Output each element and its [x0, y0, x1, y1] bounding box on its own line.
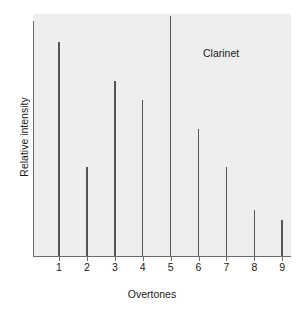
- x-axis-title: Overtones: [0, 288, 304, 300]
- bar-overtone-5: [170, 16, 172, 256]
- bar-overtone-6: [198, 129, 200, 256]
- series-annotation-clarinet: Clarinet: [203, 47, 239, 59]
- x-tick-label-1: 1: [47, 261, 71, 274]
- bar-overtone-4: [142, 100, 144, 256]
- x-tick-label-4: 4: [131, 261, 155, 274]
- bar-overtone-2: [86, 167, 88, 256]
- bar-overtone-3: [114, 81, 116, 256]
- bar-overtone-8: [254, 210, 256, 256]
- x-tick-label-6: 6: [187, 261, 211, 274]
- x-tick-label-8: 8: [242, 261, 266, 274]
- clarinet-overtone-spectrum-chart: 123456789 Clarinet Overtones Relative in…: [0, 0, 304, 314]
- x-tick-label-2: 2: [75, 261, 99, 274]
- bar-overtone-7: [226, 167, 228, 256]
- x-tick-label-3: 3: [103, 261, 127, 274]
- x-tick-label-9: 9: [270, 261, 294, 274]
- y-axis-title: Relative intensity: [18, 67, 30, 207]
- bar-overtone-9: [281, 220, 283, 256]
- x-tick-label-7: 7: [214, 261, 238, 274]
- x-tick-label-5: 5: [159, 261, 183, 274]
- bar-overtone-1: [58, 42, 60, 256]
